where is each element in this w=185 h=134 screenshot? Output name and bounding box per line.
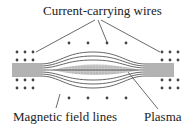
magnetic-confinement-diagram bbox=[0, 0, 185, 134]
magnetic-field-lines bbox=[12, 52, 174, 88]
pointer-lines bbox=[36, 20, 160, 109]
